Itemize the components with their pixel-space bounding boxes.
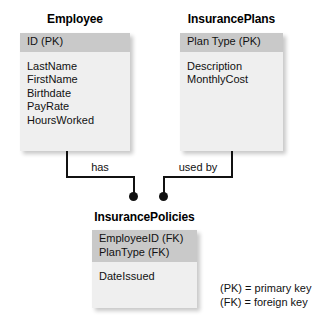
- attribute-row: Birthdate: [27, 87, 123, 101]
- er-diagram-canvas: Employee ID (PK) LastName FirstName Birt…: [0, 0, 333, 331]
- entity-body-employee: LastName FirstName Birthdate PayRate Hou…: [20, 52, 130, 134]
- attribute-row: HoursWorked: [27, 114, 123, 128]
- legend: (PK) = primary key (FK) = foreign key: [220, 282, 333, 309]
- attribute-primary-key: ID (PK): [27, 35, 123, 49]
- entity-header-employee: ID (PK): [20, 33, 130, 52]
- attribute-row: PayRate: [27, 100, 123, 114]
- attribute-primary-key: Plan Type (PK): [187, 35, 276, 49]
- entity-employee: ID (PK) LastName FirstName Birthdate Pay…: [20, 33, 130, 151]
- attribute-row: DateIssued: [99, 270, 190, 284]
- entity-title-insuranceplans: InsurancePlans: [175, 12, 288, 26]
- connector-usedby-endpoint-dot: [159, 192, 168, 201]
- entity-body-insuranceplans: Description MonthlyCost: [180, 52, 283, 93]
- attribute-foreign-key: PlanType (FK): [99, 246, 190, 260]
- attribute-row: FirstName: [27, 73, 123, 87]
- entity-insuranceplans: Plan Type (PK) Description MonthlyCost: [180, 33, 283, 151]
- connector-has-endpoint-dot: [129, 192, 138, 201]
- attribute-row: MonthlyCost: [187, 73, 276, 87]
- connector-usedby-segment-horizontal: [163, 176, 233, 178]
- attribute-row: LastName: [27, 60, 123, 74]
- entity-header-insurancepolicies: EmployeeID (FK) PlanType (FK): [92, 230, 197, 262]
- legend-item-foreign-key: (FK) = foreign key: [220, 296, 333, 310]
- connector-has-segment-horizontal: [66, 176, 135, 178]
- legend-item-primary-key: (PK) = primary key: [220, 282, 333, 296]
- connector-has-segment-vertical-top: [66, 151, 68, 178]
- entity-body-insurancepolicies: DateIssued: [92, 262, 197, 290]
- entity-title-insurancepolicies: InsurancePolicies: [87, 210, 202, 224]
- attribute-row: Description: [187, 60, 276, 74]
- entity-title-employee: Employee: [20, 12, 130, 26]
- attribute-foreign-key: EmployeeID (FK): [99, 232, 190, 246]
- entity-insurancepolicies: EmployeeID (FK) PlanType (FK) DateIssued: [92, 230, 197, 308]
- entity-header-insuranceplans: Plan Type (PK): [180, 33, 283, 52]
- relationship-label-has: has: [78, 161, 122, 173]
- relationship-label-used-by: used by: [170, 161, 226, 173]
- connector-usedby-segment-vertical-top: [231, 151, 233, 178]
